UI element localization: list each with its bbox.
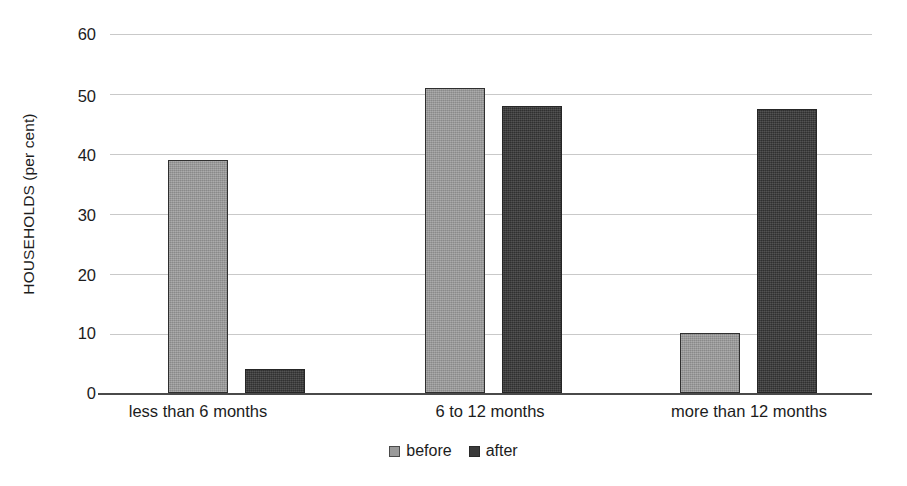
plot-area [110, 34, 872, 393]
category-label-less-than-6-months: less than 6 months [98, 401, 298, 422]
legend-entry-before: before [389, 443, 451, 459]
legend-swatch-before-icon [389, 446, 400, 457]
bar-after-more-than-12-months [757, 109, 817, 393]
y-tick-label-30: 30 [50, 207, 96, 224]
y-tick-label-40: 40 [50, 147, 96, 164]
bar-before-less-than-6-months [168, 160, 228, 393]
legend-entry-after: after [469, 443, 518, 459]
y-tick-label-50: 50 [50, 88, 96, 105]
x-axis-line [98, 393, 872, 395]
bar-chart-figure: HOUSEHOLDS (per cent) 60 50 40 30 20 10 … [0, 0, 907, 486]
y-axis-title: HOUSEHOLDS (per cent) [20, 14, 42, 394]
y-tick-label-20: 20 [50, 267, 96, 284]
legend-swatch-after-icon [469, 446, 480, 457]
category-label-6-to-12-months: 6 to 12 months [390, 401, 590, 422]
y-axis-tick-labels: 60 50 40 30 20 10 0 [50, 0, 96, 486]
y-tick-label-60: 60 [50, 26, 96, 43]
legend-label-after: after [486, 443, 518, 459]
bar-after-less-than-6-months [245, 369, 305, 393]
category-label-more-than-12-months: more than 12 months [644, 401, 854, 422]
bar-before-more-than-12-months [680, 333, 740, 393]
gridline-50 [110, 94, 872, 95]
gridline-60 [110, 34, 872, 35]
y-tick-label-10: 10 [50, 325, 96, 342]
bar-after-6-to-12-months [502, 106, 562, 393]
bar-before-6-to-12-months [425, 88, 485, 393]
legend-label-before: before [406, 443, 451, 459]
y-tick-label-0: 0 [50, 385, 96, 402]
chart-legend: before after [0, 443, 907, 459]
